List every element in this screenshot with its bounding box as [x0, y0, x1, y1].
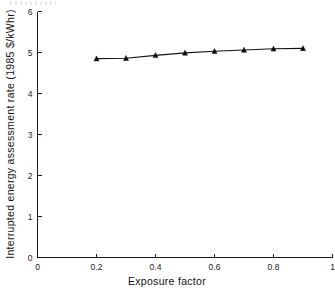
chart-figure: 00.20.40.60.81 0123456 Exposure factor I… [0, 0, 335, 288]
y-axis-title: Interrupted energy assessment rate (1985… [4, 9, 16, 259]
x-axis-ticks: 00.20.40.60.81 [35, 254, 335, 272]
x-axis-title: Exposure factor [128, 275, 206, 287]
y-tick-label: 1 [28, 212, 33, 222]
x-tick-label: 0.8 [268, 262, 280, 272]
y-tick-label: 5 [28, 48, 33, 58]
y-axis-ticks: 0123456 [28, 7, 42, 263]
data-series [94, 46, 306, 61]
x-tick-label: 0.2 [91, 262, 103, 272]
y-tick-label: 0 [28, 253, 33, 263]
y-tick-label: 2 [28, 171, 33, 181]
line-chart: 00.20.40.60.81 0123456 Exposure factor I… [0, 0, 335, 288]
y-tick-label: 3 [28, 130, 33, 140]
x-tick-label: 0.4 [150, 262, 162, 272]
x-tick-label: 1 [330, 262, 335, 272]
y-tick-label: 4 [28, 89, 33, 99]
x-tick-label: 0 [35, 262, 40, 272]
x-tick-label: 0.6 [209, 262, 221, 272]
y-tick-label: 6 [28, 7, 33, 17]
